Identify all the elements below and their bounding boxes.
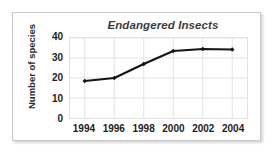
y-tick-label: 40 [43,32,63,42]
plot-area [69,37,248,119]
data-point-marker [230,47,235,51]
y-tick-label: 0 [43,114,63,124]
y-tick-label: 10 [43,94,63,104]
x-axis-tick-labels: 199419961998200020022004 [69,123,248,137]
y-tick-label: 30 [43,53,63,63]
data-line [85,49,232,81]
y-axis-tick-labels: 403020100 [43,37,63,119]
data-point-marker [82,79,87,83]
chart-card: Endangered Insects Number of species 403… [12,12,261,141]
line-chart-svg [70,38,247,118]
y-axis-title: Number of species [26,21,37,113]
y-tick-label: 20 [43,73,63,83]
data-point-marker [200,47,205,51]
x-tick-label: 2004 [215,123,251,135]
chart-title: Endangered Insects [68,19,258,31]
figure-root: Endangered Insects Number of species 403… [0,0,275,153]
